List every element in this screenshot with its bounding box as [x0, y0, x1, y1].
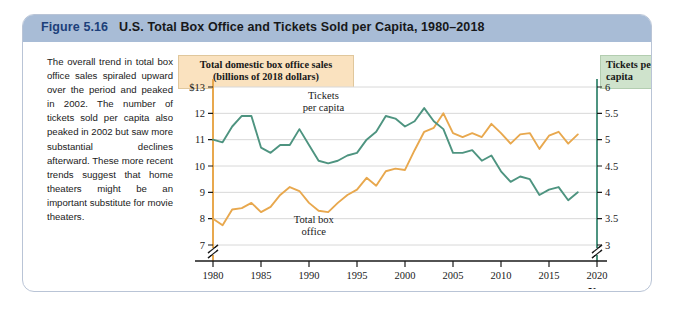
x-axis-tick-label: 1995: [347, 270, 368, 281]
chart-svg: $1312111098765.554.543.53198019851990199…: [153, 49, 649, 289]
y2-axis-tick-label: 5.5: [605, 108, 618, 119]
y-axis-tick-label: 8: [200, 213, 205, 224]
x-axis-tick-label: 2000: [395, 270, 416, 281]
x-axis-tick-label: 1985: [251, 270, 272, 281]
figure-title-bar: Figure 5.16U.S. Total Box Office and Tic…: [23, 15, 651, 42]
y-axis-tick-label: 7: [200, 240, 205, 251]
y-axis-tick-label: $13: [189, 82, 205, 93]
y-axis-tick-label: 9: [200, 187, 205, 198]
x-axis-tick-label: 1980: [203, 270, 224, 281]
x-axis-title: Year: [588, 285, 610, 289]
x-axis-tick-label: 2005: [443, 270, 464, 281]
y-axis-tick-label: 11: [195, 134, 205, 145]
y2-axis-tick-label: 6: [605, 82, 610, 93]
x-axis-tick-label: 1990: [299, 270, 320, 281]
figure-page: Figure 5.16U.S. Total Box Office and Tic…: [0, 0, 677, 318]
x-axis-tick-label: 2020: [587, 270, 608, 281]
figure-number: 5.16: [83, 20, 108, 34]
x-axis-tick-label: 2015: [539, 270, 560, 281]
annotation-tickets-per-capita: Ticketsper capita: [303, 90, 345, 113]
y2-axis-tick-label: 4.5: [605, 161, 618, 172]
x-axis-tick-label: 2010: [491, 270, 512, 281]
line-chart-plot: $1312111098765.554.543.53198019851990199…: [153, 49, 649, 289]
y-axis-tick-label: 12: [195, 108, 206, 119]
y2-axis-tick-label: 3.5: [605, 213, 618, 224]
figure-title-text: U.S. Total Box Office and Tickets Sold p…: [119, 20, 484, 34]
page-title: Figure 5.16U.S. Total Box Office and Tic…: [41, 20, 485, 34]
y2-axis-tick-label: 4: [605, 187, 611, 198]
chart-container: Total domestic box office sales (billion…: [153, 49, 649, 289]
y2-axis-tick-label: 5: [605, 134, 610, 145]
figure-label: Figure: [41, 20, 80, 34]
figure-card: Figure 5.16U.S. Total Box Office and Tic…: [22, 14, 652, 292]
y-axis-tick-label: 10: [195, 161, 206, 172]
y2-axis-tick-label: 3: [605, 240, 610, 251]
